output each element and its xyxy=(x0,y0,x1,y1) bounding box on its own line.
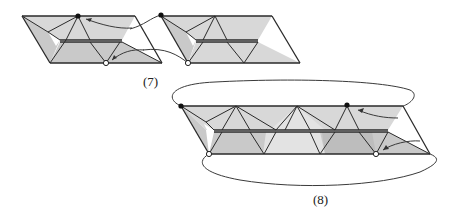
folding-diagram: (7) xyxy=(0,0,465,223)
black-dot-marker xyxy=(344,102,349,107)
white-dot-marker xyxy=(373,151,378,156)
black-dot-marker xyxy=(158,12,163,17)
black-dot-marker xyxy=(75,13,80,18)
black-dot-marker xyxy=(178,103,183,108)
connector-top xyxy=(130,15,161,29)
loop-bottom xyxy=(202,154,436,186)
white-dot-marker xyxy=(103,60,108,65)
fig7-left-piece xyxy=(22,13,162,65)
loop-top xyxy=(172,80,414,106)
white-dot-marker xyxy=(185,60,190,65)
figure-8: (8) xyxy=(172,80,436,207)
figure-7-caption: (7) xyxy=(143,74,158,89)
white-dot-marker xyxy=(206,151,211,156)
figure-8-caption: (8) xyxy=(313,192,328,207)
figure-7: (7) xyxy=(22,12,300,89)
